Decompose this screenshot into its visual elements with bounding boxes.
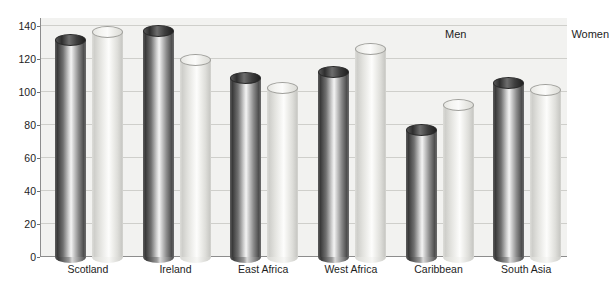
bar-men-caribbean [406, 124, 437, 258]
bar-women-west-africa [355, 43, 386, 257]
y-axis-tick-mark [37, 26, 40, 27]
legend-item-men: Men [392, 23, 466, 45]
light-cylinder-swatch-icon [518, 23, 562, 45]
y-axis-tick-mark [37, 191, 40, 192]
bar-women-south-asia [530, 84, 561, 257]
y-axis-tick-label: 40 [0, 185, 36, 197]
bar-men-scotland [55, 34, 86, 257]
y-axis-tick-label: 140 [0, 20, 36, 32]
legend-label-men: Men [445, 28, 466, 40]
y-axis-tick-mark [37, 59, 40, 60]
y-axis-tick-mark [37, 257, 40, 258]
bar-women-scotland [92, 26, 123, 257]
x-axis-label-west-africa: West Africa [324, 263, 377, 275]
x-axis-label-scotland: Scotland [67, 263, 108, 275]
bar-women-east-africa [267, 82, 298, 257]
y-axis-tick-mark [37, 224, 40, 225]
y-axis-tick-mark [37, 158, 40, 159]
y-axis-tick-label: 20 [0, 218, 36, 230]
bar-women-caribbean [443, 99, 474, 257]
legend-label-women: Women [571, 28, 609, 40]
x-axis-label-east-africa: East Africa [238, 263, 288, 275]
bar-men-ireland [143, 25, 174, 257]
bar-men-east-africa [230, 72, 261, 257]
bar-women-ireland [180, 54, 211, 257]
x-axis-label-ireland: Ireland [159, 263, 191, 275]
y-axis-tick-label: 80 [0, 119, 36, 131]
y-axis-tick-label: 0 [0, 251, 36, 263]
legend: Men Women [392, 20, 609, 48]
dark-cylinder-swatch-icon [392, 23, 436, 45]
bar-men-west-africa [318, 66, 349, 257]
x-axis-label-caribbean: Caribbean [414, 263, 462, 275]
y-axis-tick-mark [37, 92, 40, 93]
y-axis-tick-label: 100 [0, 86, 36, 98]
legend-item-women: Women [518, 23, 609, 45]
x-axis-label-south-asia: South Asia [501, 263, 551, 275]
y-axis-tick-label: 120 [0, 53, 36, 65]
y-axis-tick-label: 60 [0, 152, 36, 164]
y-axis-tick-mark [37, 125, 40, 126]
bar-men-south-asia [493, 77, 524, 257]
